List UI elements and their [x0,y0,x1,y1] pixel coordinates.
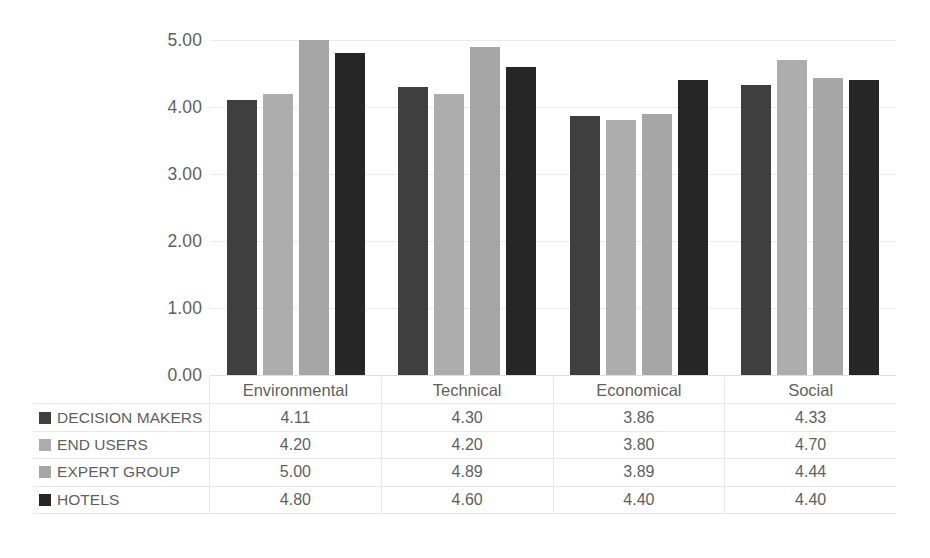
table-cell-value: 3.89 [554,459,726,485]
bar [506,67,536,375]
bar [606,120,636,375]
category-label: Social [725,377,896,403]
y-tick-label: 3.00 [138,164,202,185]
bar [777,60,807,375]
table-cell-value: 3.86 [554,404,726,430]
bar [642,114,672,375]
table-cell-value: 4.70 [725,432,896,458]
table-row: HOTELS4.804.604.404.40 [33,487,896,514]
bar [335,53,365,375]
table-cell-value: 4.40 [554,487,726,513]
table-cell-value: 4.60 [382,487,554,513]
table-row: END USERS4.204.203.804.70 [33,432,896,459]
y-tick-label: 1.00 [138,298,202,319]
legend-entry: HOTELS [33,487,210,513]
table-cell-value: 4.33 [725,404,896,430]
category-axis-row: EnvironmentalTechnicalEconomicalSocial [33,377,896,404]
series-label: HOTELS [57,491,119,509]
data-table: EnvironmentalTechnicalEconomicalSocialDE… [33,377,896,514]
legend-entry: END USERS [33,432,210,458]
bar [434,94,464,375]
table-cell-value: 4.20 [210,432,382,458]
bar [470,47,500,375]
bar [570,116,600,375]
gridline [210,375,896,376]
table-cell-value: 4.20 [382,432,554,458]
table-cell-value: 4.40 [725,487,896,513]
bar [678,80,708,375]
table-cell-value: 4.11 [210,404,382,430]
category-label: Environmental [210,377,382,403]
series-label: DECISION MAKERS [57,409,202,427]
table-corner-cell [33,377,210,403]
y-tick-label: 4.00 [138,97,202,118]
legend-entry: DECISION MAKERS [33,404,210,430]
bar [398,87,428,375]
series-label: EXPERT GROUP [57,463,180,481]
table-cell-value: 5.00 [210,459,382,485]
category-label: Technical [382,377,554,403]
table-row: DECISION MAKERS4.114.303.864.33 [33,404,896,431]
table-cell-value: 4.44 [725,459,896,485]
bar [741,85,771,375]
table-cell-value: 4.80 [210,487,382,513]
legend-swatch-icon [39,466,51,478]
bars-layer [210,40,896,375]
category-label: Economical [554,377,726,403]
legend-swatch-icon [39,439,51,451]
table-row: EXPERT GROUP5.004.893.894.44 [33,459,896,486]
y-tick-label: 5.00 [138,30,202,51]
grouped-bar-chart-with-data-table: 5.004.003.002.001.000.00 EnvironmentalTe… [0,0,930,558]
y-tick-label: 2.00 [138,231,202,252]
bar [849,80,879,375]
legend-swatch-icon [39,412,51,424]
table-cell-value: 3.80 [554,432,726,458]
legend-entry: EXPERT GROUP [33,459,210,485]
bar [813,78,843,375]
legend-swatch-icon [39,494,51,506]
series-label: END USERS [57,436,148,454]
table-cell-value: 4.30 [382,404,554,430]
table-cell-value: 4.89 [382,459,554,485]
bar [263,94,293,375]
bar [227,100,257,375]
bar [299,40,329,375]
